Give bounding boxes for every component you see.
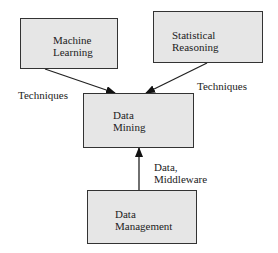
node-statistical-reasoning: Statistical Reasoning: [153, 11, 263, 63]
node-data-mining: Data Mining: [83, 93, 194, 148]
node-machine-learning: Machine Learning: [20, 18, 118, 69]
node-label: Mining: [113, 121, 193, 133]
diagram-canvas: Machine Learning Statistical Reasoning D…: [0, 0, 278, 253]
edge-label-techniques-left: Techniques: [18, 89, 68, 101]
node-label: Statistical: [172, 29, 262, 41]
node-label: Learning: [53, 46, 117, 58]
node-label: Machine: [53, 34, 117, 46]
node-label: Reasoning: [172, 41, 262, 53]
node-label: Data: [115, 208, 196, 220]
node-label: Management: [115, 220, 196, 232]
edge-label-line: Data,: [154, 161, 207, 173]
node-data-management: Data Management: [87, 190, 197, 244]
edge-label-line: Middleware: [154, 173, 207, 185]
node-label: Data: [113, 109, 193, 121]
edge-label-techniques-right: Techniques: [197, 80, 247, 92]
edge-label-data-middleware: Data, Middleware: [154, 161, 207, 185]
